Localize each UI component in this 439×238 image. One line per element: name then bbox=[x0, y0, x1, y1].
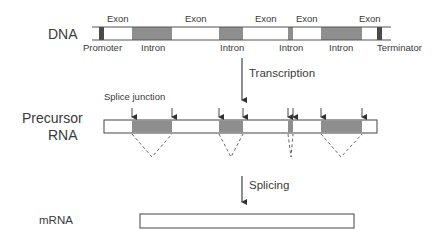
rna-intron-3 bbox=[288, 121, 293, 133]
exon-label-4: Exon bbox=[296, 14, 318, 24]
dna-strand bbox=[92, 27, 391, 40]
precursor-label-line1: Precursor bbox=[22, 111, 83, 125]
rna-intron-2 bbox=[219, 121, 243, 133]
exon-label-2: Exon bbox=[185, 14, 207, 24]
dna-intron-1 bbox=[132, 27, 172, 40]
dna-terminator-block bbox=[377, 27, 382, 40]
rna-intron-4 bbox=[321, 121, 362, 133]
mrna-strand bbox=[140, 214, 354, 228]
intron-label-4: Intron bbox=[329, 43, 353, 53]
dna-intron-4 bbox=[321, 27, 362, 40]
exon-label-5: Exon bbox=[359, 14, 381, 24]
dna-promoter-block bbox=[99, 27, 104, 40]
dna-intron-3 bbox=[288, 27, 293, 40]
mrna-label: mRNA bbox=[39, 215, 73, 227]
dna-intron-2 bbox=[219, 27, 243, 40]
precursor-rna-strand bbox=[104, 120, 377, 133]
splice-junction-label: Splice junction bbox=[104, 92, 165, 102]
intron-excision-lines bbox=[132, 134, 362, 157]
splicing-label: Splicing bbox=[249, 180, 289, 192]
precursor-label-line2: RNA bbox=[48, 128, 78, 142]
intron-label-2: Intron bbox=[220, 43, 244, 53]
exon-label-3: Exon bbox=[255, 14, 277, 24]
terminator-label: Terminator bbox=[377, 43, 422, 53]
intron-label-3: Intron bbox=[279, 43, 303, 53]
transcription-label: Transcription bbox=[249, 68, 315, 80]
exon-label-1: Exon bbox=[107, 14, 129, 24]
dna-label: DNA bbox=[48, 27, 78, 41]
splice-junction-arrows bbox=[132, 108, 362, 117]
intron-label-1: Intron bbox=[141, 43, 165, 53]
promoter-label: Promoter bbox=[83, 43, 122, 53]
rna-intron-1 bbox=[132, 121, 172, 133]
